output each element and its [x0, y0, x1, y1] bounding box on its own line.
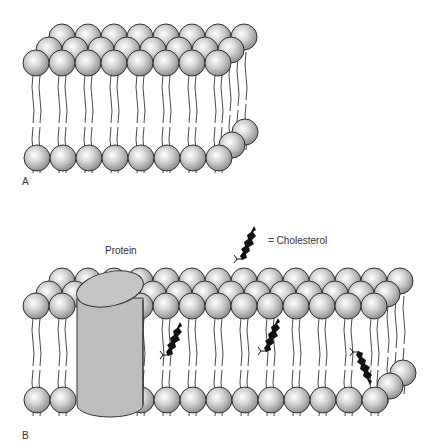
- panel-a-bilayer: [23, 24, 258, 173]
- protein-label: Protein: [105, 245, 137, 256]
- cholesterol-molecule: [160, 322, 182, 359]
- panel-a-bottom-heads: [24, 119, 258, 171]
- panel-b-bilayer: [23, 265, 416, 417]
- panel-b-label: B: [22, 430, 29, 441]
- panel-a-label: A: [22, 176, 29, 187]
- cholesterol-icon: [234, 226, 256, 263]
- cholesterol-legend-label: = Cholesterol: [268, 235, 327, 246]
- protein-cylinder: [73, 265, 147, 417]
- cholesterol-molecule: [258, 318, 280, 355]
- membrane-diagram: [0, 0, 439, 448]
